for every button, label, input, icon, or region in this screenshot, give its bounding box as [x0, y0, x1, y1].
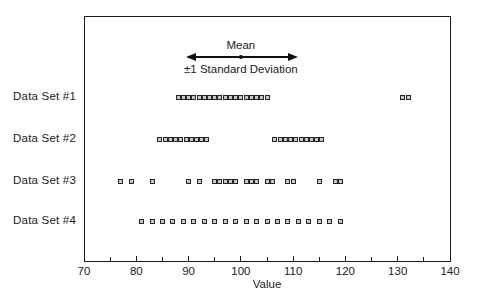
data-point: [317, 179, 322, 184]
data-point: [163, 137, 168, 142]
x-axis-minor-tick: [214, 257, 215, 261]
x-axis-minor-tick: [267, 257, 268, 261]
data-point: [191, 219, 196, 224]
data-point: [400, 95, 405, 100]
data-point: [254, 219, 259, 224]
x-axis-minor-tick: [371, 257, 372, 261]
data-point: [181, 219, 186, 224]
data-point: [291, 179, 296, 184]
x-axis-tick-label: 110: [284, 265, 302, 277]
data-point: [275, 219, 280, 224]
x-axis-major-tick: [240, 256, 241, 261]
data-point: [254, 95, 259, 100]
data-point: [160, 219, 165, 224]
data-point: [212, 219, 217, 224]
x-axis-tick-label: 90: [182, 265, 195, 277]
data-point: [270, 179, 275, 184]
x-axis-tick-label: 70: [78, 265, 91, 277]
mean-annotation-label: Mean: [226, 39, 255, 51]
data-point: [181, 95, 186, 100]
data-point: [139, 219, 144, 224]
data-point: [254, 179, 259, 184]
data-point: [272, 137, 277, 142]
sd-arrow-left-arrowhead-icon: [186, 53, 196, 61]
data-point: [170, 219, 175, 224]
data-point: [244, 219, 249, 224]
data-point: [233, 219, 238, 224]
x-axis-tick-label: 100: [231, 265, 250, 277]
data-point: [199, 137, 204, 142]
data-point: [204, 137, 209, 142]
x-axis-major-tick: [84, 256, 85, 261]
data-point: [186, 179, 191, 184]
data-point: [285, 219, 290, 224]
x-axis-major-tick: [397, 256, 398, 261]
data-point: [197, 95, 202, 100]
data-point: [338, 219, 343, 224]
data-point: [406, 95, 411, 100]
data-point: [317, 219, 322, 224]
data-point: [309, 137, 314, 142]
data-point: [319, 137, 324, 142]
data-point: [327, 219, 332, 224]
data-point: [265, 95, 270, 100]
x-axis-major-tick: [188, 256, 189, 261]
data-point: [118, 179, 123, 184]
data-point: [217, 179, 222, 184]
data-point: [150, 179, 155, 184]
data-point: [233, 95, 238, 100]
sd-arrow-right-arrowhead-icon: [288, 53, 298, 61]
x-axis-tick-label: 120: [336, 265, 355, 277]
data-point: [197, 179, 202, 184]
data-point: [233, 179, 238, 184]
data-point: [150, 219, 155, 224]
x-axis-minor-tick: [319, 257, 320, 261]
data-point: [217, 95, 222, 100]
x-axis-major-tick: [345, 256, 346, 261]
plot-area: [84, 16, 451, 262]
row-label-data-set-4: Data Set #4: [0, 214, 76, 226]
sd-annotation-label: ±1 Standard Deviation: [184, 63, 298, 75]
x-axis-major-tick: [450, 256, 451, 261]
data-point: [178, 137, 183, 142]
data-point: [296, 219, 301, 224]
data-point: [265, 219, 270, 224]
x-axis-major-tick: [293, 256, 294, 261]
data-point: [223, 219, 228, 224]
x-axis-minor-tick: [110, 257, 111, 261]
data-point: [338, 179, 343, 184]
x-axis-minor-tick: [162, 257, 163, 261]
data-point: [306, 219, 311, 224]
mean-point-marker: [239, 55, 243, 59]
dot-plot-figure: Mean ±1 Standard Deviation Value 7080901…: [0, 0, 478, 300]
data-point: [129, 179, 134, 184]
x-axis-minor-tick: [423, 257, 424, 261]
x-axis-major-tick: [136, 256, 137, 261]
row-label-data-set-3: Data Set #3: [0, 174, 76, 186]
x-axis-tick-label: 140: [440, 265, 459, 277]
x-axis-tick-label: 130: [388, 265, 407, 277]
x-axis-tick-label: 80: [130, 265, 143, 277]
row-label-data-set-2: Data Set #2: [0, 132, 76, 144]
data-point: [202, 219, 207, 224]
x-axis-title: Value: [253, 278, 282, 290]
row-label-data-set-1: Data Set #1: [0, 90, 76, 102]
data-point: [288, 137, 293, 142]
